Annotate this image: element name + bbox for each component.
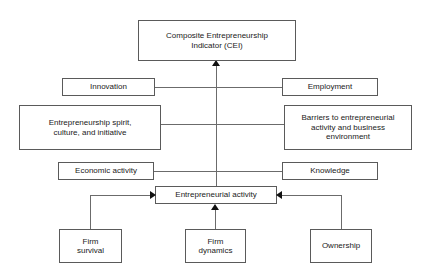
firm-dynamics-box[interactable]: Firm dynamics: [185, 229, 246, 263]
connector-row3-left: [153, 171, 217, 172]
diagram-canvas: Composite Entrepreneurship Indicator (CE…: [0, 0, 431, 272]
entrepreneurship-spirit-box[interactable]: Entrepreneurship spirit, culture, and in…: [19, 105, 161, 150]
connector-row3-right: [216, 171, 282, 172]
innovation-box[interactable]: Innovation: [62, 78, 155, 96]
knowledge-box[interactable]: Knowledge: [282, 162, 378, 180]
composite-entrepreneurship-indicator-box[interactable]: Composite Entrepreneurship Indicator (CE…: [138, 20, 296, 61]
connector-spine-vertical: [216, 66, 217, 186]
firm-survival-box[interactable]: Firm survival: [59, 229, 122, 263]
connector-row2-right: [216, 124, 285, 125]
barriers-box[interactable]: Barriers to entrepreneurial activity and…: [284, 105, 412, 150]
connector-firm-survival-vertical: [90, 195, 91, 229]
arrow-firm-survival-to-center: [150, 191, 156, 199]
entrepreneurial-activity-box[interactable]: Entrepreneurial activity: [155, 186, 277, 204]
connector-row2-left: [160, 124, 217, 125]
connector-firm-dynamics-vertical: [215, 208, 216, 229]
ownership-box[interactable]: Ownership: [310, 229, 372, 263]
connector-ownership-vertical: [341, 195, 342, 229]
connector-ownership-horizontal: [281, 195, 342, 196]
connector-firm-survival-horizontal: [90, 195, 152, 196]
connector-row1-left: [154, 87, 217, 88]
connector-row1-right: [216, 87, 282, 88]
arrow-ownership-to-center: [276, 191, 282, 199]
employment-box[interactable]: Employment: [282, 78, 378, 96]
economic-activity-box[interactable]: Economic activity: [58, 162, 154, 180]
arrow-firm-dynamics-to-center: [211, 204, 219, 210]
